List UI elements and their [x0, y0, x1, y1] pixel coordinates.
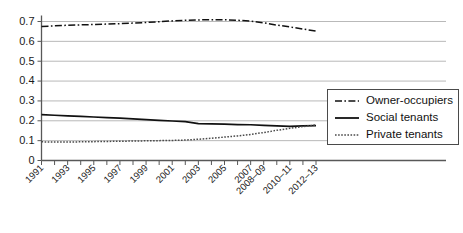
- svg-text:0.2: 0.2: [19, 114, 34, 126]
- chart-legend: Owner-occupiers Social tenants Private t…: [327, 89, 459, 145]
- legend-item-private-tenants: Private tenants: [328, 126, 458, 143]
- y-axis-tick-labels: 00.10.20.30.40.50.60.7: [19, 15, 34, 166]
- svg-text:0: 0: [28, 154, 34, 166]
- legend-label-private-tenants: Private tenants: [366, 128, 443, 141]
- x-axis-tick-labels: 1991199319951997199920012003200520072008…: [23, 162, 320, 196]
- svg-text:0.5: 0.5: [19, 55, 34, 67]
- svg-text:0.6: 0.6: [19, 35, 34, 47]
- svg-text:0.7: 0.7: [19, 15, 34, 27]
- solid-line-icon: [334, 112, 360, 124]
- legend-item-social-tenants: Social tenants: [328, 109, 458, 126]
- svg-text:2005: 2005: [206, 162, 229, 185]
- svg-text:1995: 1995: [75, 162, 98, 185]
- dotted-line-icon: [334, 129, 360, 141]
- svg-text:0.4: 0.4: [19, 74, 34, 86]
- svg-text:1999: 1999: [127, 162, 150, 185]
- svg-text:1991: 1991: [23, 162, 46, 185]
- dash-dot-line-icon: [334, 95, 360, 107]
- series-line-private-tenants: [42, 125, 317, 142]
- legend-item-owner-occupiers: Owner-occupiers: [328, 92, 458, 109]
- svg-text:0.1: 0.1: [19, 134, 34, 146]
- svg-text:1997: 1997: [101, 162, 124, 185]
- svg-text:2003: 2003: [180, 162, 203, 185]
- svg-text:1993: 1993: [49, 162, 72, 185]
- svg-text:0.3: 0.3: [19, 94, 34, 106]
- chart-container: 00.10.20.30.40.50.60.7 19911993199519971…: [0, 0, 463, 233]
- legend-label-social-tenants: Social tenants: [366, 111, 438, 124]
- tickmarks-group: [38, 22, 317, 166]
- legend-label-owner-occupiers: Owner-occupiers: [366, 94, 453, 107]
- svg-text:2001: 2001: [153, 162, 176, 185]
